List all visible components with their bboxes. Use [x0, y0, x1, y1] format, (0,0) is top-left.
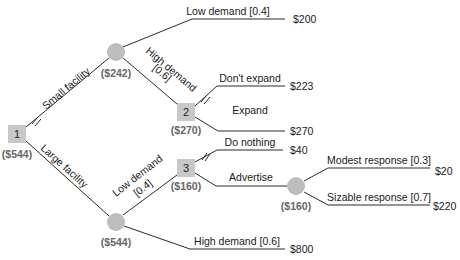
label-expand: Expand	[232, 104, 268, 116]
chance-small-value: ($242)	[101, 67, 131, 79]
node-2-label: 2	[183, 106, 189, 118]
label-sizable-response: Sizable response [0.7]	[327, 191, 431, 203]
label-large-facility: Large facility	[39, 142, 91, 191]
decision-tree: 1 ($544) ($242) 2 ($270) ($544) 3 ($160)…	[0, 0, 460, 260]
label-advertise: Advertise	[229, 171, 273, 183]
node-1-label: 1	[14, 128, 20, 140]
branch-small-low-demand	[123, 19, 285, 47]
payoff-270: $270	[290, 125, 314, 137]
node-2-value: ($270)	[171, 124, 201, 136]
label-dont-expand: Don't expand	[219, 72, 281, 84]
branch-dont-expand	[195, 86, 285, 106]
label-small-facility: Small facility	[40, 64, 93, 111]
branch-modest-response	[304, 168, 430, 181]
node-3-value: ($160)	[171, 180, 201, 192]
chance-advertise-value: ($160)	[281, 200, 311, 212]
label-modest-response: Modest response [0.3]	[327, 154, 431, 166]
branch-expand	[195, 117, 285, 131]
chance-node-small	[107, 43, 125, 61]
payoff-800: $800	[290, 243, 314, 255]
payoff-220: $220	[433, 200, 457, 212]
chance-node-advertise	[287, 177, 305, 195]
label-small-low-demand: Low demand [0.4]	[186, 5, 270, 17]
node-3-label: 3	[183, 162, 189, 174]
payoff-200: $200	[293, 13, 317, 25]
branch-large-facility	[26, 141, 109, 216]
chance-node-large	[107, 213, 125, 231]
label-large-high-demand: High demand [0.6]	[194, 235, 280, 247]
node-1-value: ($544)	[2, 148, 32, 160]
payoff-223: $223	[290, 80, 314, 92]
payoff-20: $20	[435, 165, 453, 177]
chance-large-value: ($544)	[101, 236, 131, 248]
payoff-40: $40	[290, 144, 308, 156]
label-do-nothing: Do nothing	[225, 136, 276, 148]
